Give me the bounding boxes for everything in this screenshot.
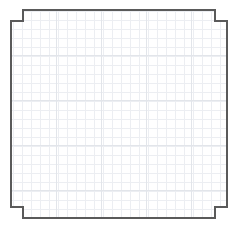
notched-grid-panel[interactable]: [0, 0, 238, 228]
grid-lines: [0, 0, 238, 228]
grid-area: [0, 0, 238, 228]
grid-canvas-surface[interactable]: [0, 0, 238, 228]
